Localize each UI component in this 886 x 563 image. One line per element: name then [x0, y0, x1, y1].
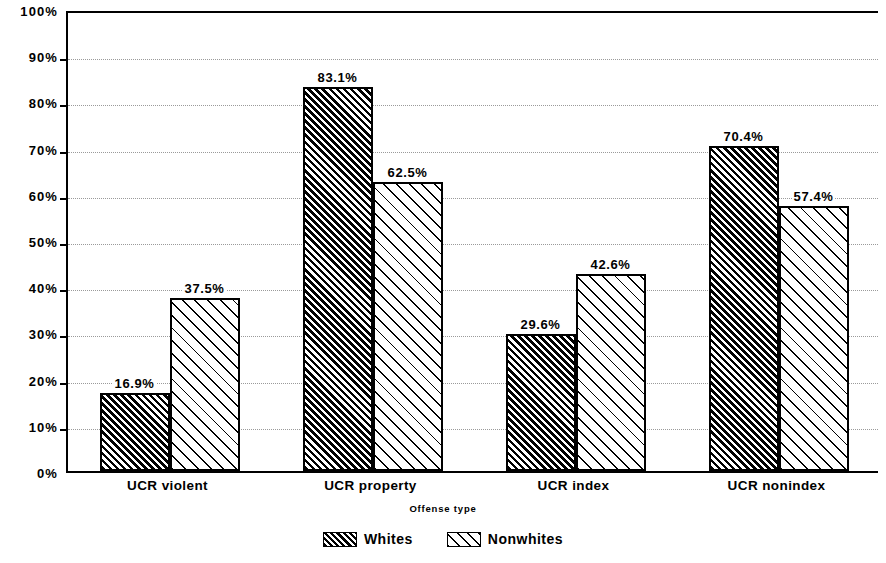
y-axis-tick-label: 80% — [6, 97, 58, 110]
y-axis-tickmark — [60, 198, 68, 200]
y-axis-tick-label: 0% — [6, 467, 58, 480]
y-axis-tickmark — [60, 383, 68, 385]
y-axis-tickmark — [60, 59, 68, 61]
bar-nonwhites-ucr-index: 42.6% — [576, 274, 646, 471]
legend-swatch-nonwhites — [447, 532, 481, 547]
y-axis-tick-label: 70% — [6, 144, 58, 157]
bar-value-label: 29.6% — [519, 317, 563, 332]
y-axis-tickmark — [60, 429, 68, 431]
y-axis-tick-label: 100% — [6, 5, 58, 18]
bar-group: 70.4%57.4% — [677, 13, 880, 471]
bar-value-label: 42.6% — [589, 257, 633, 272]
legend-item-nonwhites: Nonwhites — [447, 531, 563, 547]
bar-nonwhites-ucr-property: 62.5% — [373, 182, 443, 471]
bar-nonwhites-ucr-violent: 37.5% — [170, 298, 240, 471]
legend-item-whites: Whites — [323, 531, 413, 547]
bar-value-label: 37.5% — [183, 281, 227, 296]
x-axis-title: Offense type — [0, 503, 886, 514]
bar-whites-ucr-property: 83.1% — [303, 87, 373, 471]
bar-group: 29.6%42.6% — [474, 13, 677, 471]
bar-whites-ucr-nonindex: 70.4% — [709, 146, 779, 471]
y-axis-tickmark — [60, 290, 68, 292]
bar-value-label: 16.9% — [113, 376, 157, 391]
bar-value-label: 57.4% — [792, 189, 836, 204]
legend-swatch-whites — [323, 532, 357, 547]
legend-label: Nonwhites — [488, 531, 563, 547]
bar-whites-ucr-violent: 16.9% — [100, 393, 170, 471]
x-axis-tick-label: UCR nonindex — [728, 478, 826, 493]
y-axis-tick-label: 10% — [6, 421, 58, 434]
y-axis-tickmark — [60, 336, 68, 338]
bar-group: 83.1%62.5% — [271, 13, 474, 471]
y-axis-tick-label: 40% — [6, 282, 58, 295]
bar-value-label: 70.4% — [722, 129, 766, 144]
legend-label: Whites — [364, 531, 413, 547]
y-axis-tick-label: 90% — [6, 51, 58, 64]
y-axis-tickmark — [60, 244, 68, 246]
y-axis-tickmark — [60, 105, 68, 107]
y-axis: 0%10%20%30%40%50%60%70%80%90%100% — [0, 0, 58, 563]
bar-chart-figure: 0%10%20%30%40%50%60%70%80%90%100% 16.9%3… — [0, 0, 886, 563]
plot-area: 16.9%37.5%83.1%62.5%29.6%42.6%70.4%57.4% — [66, 11, 878, 473]
bar-value-label: 62.5% — [386, 165, 430, 180]
bar-group: 16.9%37.5% — [68, 13, 271, 471]
bar-nonwhites-ucr-nonindex: 57.4% — [779, 206, 849, 471]
x-axis-tick-label: UCR violent — [127, 478, 208, 493]
chart-legend: WhitesNonwhites — [0, 531, 886, 547]
bar-whites-ucr-index: 29.6% — [506, 334, 576, 471]
y-axis-tick-label: 30% — [6, 328, 58, 341]
x-axis: UCR violentUCR propertyUCR indexUCR noni… — [66, 478, 878, 498]
y-axis-tick-label: 20% — [6, 375, 58, 388]
y-axis-tick-label: 60% — [6, 190, 58, 203]
x-axis-tick-label: UCR property — [324, 478, 417, 493]
y-axis-tickmark — [60, 152, 68, 154]
bar-value-label: 83.1% — [316, 70, 360, 85]
y-axis-tick-label: 50% — [6, 236, 58, 249]
x-axis-tick-label: UCR index — [538, 478, 610, 493]
